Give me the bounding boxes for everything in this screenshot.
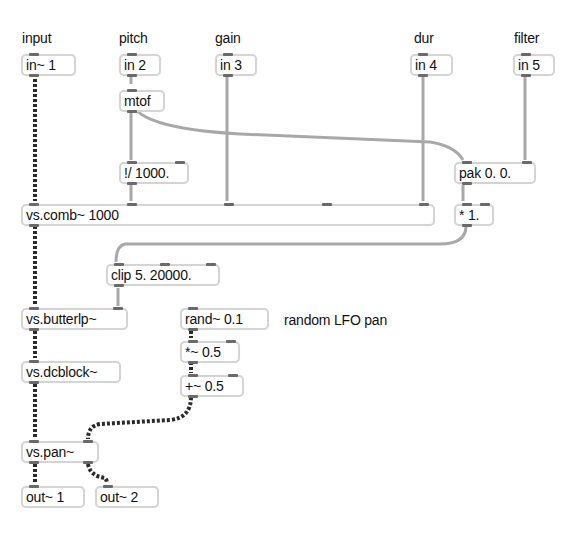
label-gain: gain — [215, 30, 241, 46]
cord-mtof-pak — [131, 100, 463, 160]
inlet-port[interactable] — [29, 307, 39, 310]
patcher-canvas[interactable]: input pitch gain dur filter random LFO p… — [0, 0, 573, 535]
comment-random-lfo-pan: random LFO pan — [284, 312, 387, 328]
inlet-port[interactable] — [223, 53, 233, 56]
object-vs-pan[interactable]: vs.pan~ — [21, 441, 99, 463]
object-mtof[interactable]: mtof — [119, 90, 165, 112]
outlet-port[interactable] — [462, 224, 472, 227]
object-clip[interactable]: clip 5. 20000. — [106, 264, 220, 286]
object-text: vs.dcblock~ — [26, 364, 97, 380]
inlet-port[interactable] — [188, 307, 198, 310]
object-text: !/ 1000. — [124, 165, 169, 181]
outlet-port[interactable] — [521, 74, 531, 77]
inlet-port[interactable] — [480, 203, 490, 206]
object-multiply[interactable]: * 1. — [454, 204, 494, 226]
object-text: mtof — [124, 93, 150, 109]
outlet-port[interactable] — [127, 182, 137, 185]
inlet-port[interactable] — [188, 374, 198, 377]
object-pak[interactable]: pak 0. 0. — [454, 162, 536, 184]
outlet-port[interactable] — [223, 74, 233, 77]
inlet-port[interactable] — [160, 263, 170, 266]
outlet-port[interactable] — [127, 74, 137, 77]
inlet-port[interactable] — [29, 53, 39, 56]
object-rdiv[interactable]: !/ 1000. — [119, 162, 189, 184]
inlet-port[interactable] — [188, 340, 198, 343]
object-add-signal[interactable]: +~ 0.5 — [180, 375, 244, 397]
inlet-port[interactable] — [29, 440, 39, 443]
outlet-port[interactable] — [188, 395, 198, 398]
object-mul-signal[interactable]: *~ 0.5 — [180, 341, 240, 363]
inlet-port[interactable] — [462, 203, 472, 206]
object-out2[interactable]: out~ 2 — [95, 486, 159, 508]
outlet-port[interactable] — [127, 110, 137, 113]
inlet-port[interactable] — [127, 161, 137, 164]
outlet-port[interactable] — [188, 328, 198, 331]
outlet-port[interactable] — [29, 224, 39, 227]
object-in4[interactable]: in 4 — [410, 54, 453, 76]
inlet-port[interactable] — [322, 203, 332, 206]
outlet-port[interactable] — [418, 74, 428, 77]
object-text: in 4 — [415, 57, 437, 73]
inlet-port[interactable] — [127, 89, 137, 92]
object-text: out~ 2 — [100, 489, 138, 505]
object-text: in~ 1 — [26, 57, 56, 73]
label-pitch: pitch — [119, 30, 148, 46]
outlet-port[interactable] — [29, 74, 39, 77]
object-text: out~ 1 — [26, 489, 64, 505]
object-text: clip 5. 20000. — [111, 267, 191, 283]
outlet-port[interactable] — [188, 361, 198, 364]
inlet-port[interactable] — [522, 161, 532, 164]
label-filter: filter — [514, 30, 539, 46]
inlet-port[interactable] — [419, 203, 429, 206]
inlet-port[interactable] — [521, 53, 531, 56]
object-text: in 3 — [220, 57, 242, 73]
object-text: vs.comb~ 1000 — [26, 207, 119, 223]
inlet-port[interactable] — [113, 307, 123, 310]
object-in3[interactable]: in 3 — [215, 54, 257, 76]
inlet-port[interactable] — [224, 203, 234, 206]
object-rand[interactable]: rand~ 0.1 — [180, 308, 269, 330]
inlet-port[interactable] — [29, 485, 39, 488]
cord-mul-clip — [116, 226, 466, 262]
object-text: pak 0. 0. — [459, 165, 511, 181]
outlet-port[interactable] — [114, 284, 124, 287]
object-text: *~ 0.5 — [185, 344, 221, 360]
object-text: rand~ 0.1 — [185, 311, 243, 327]
inlet-port[interactable] — [228, 374, 238, 377]
inlet-port[interactable] — [29, 360, 39, 363]
object-vs-comb[interactable]: vs.comb~ 1000 — [21, 204, 435, 226]
inlet-port[interactable] — [29, 203, 39, 206]
outlet-port[interactable] — [29, 381, 39, 384]
inlet-port[interactable] — [226, 340, 236, 343]
object-text: * 1. — [459, 207, 479, 223]
inlet-port[interactable] — [206, 263, 216, 266]
outlet-port[interactable] — [462, 182, 472, 185]
inlet-port[interactable] — [127, 53, 137, 56]
object-out1[interactable]: out~ 1 — [21, 486, 85, 508]
inlet-port[interactable] — [127, 203, 137, 206]
object-text: vs.butterlp~ — [26, 311, 96, 327]
object-vs-dcblock[interactable]: vs.dcblock~ — [21, 361, 121, 383]
object-in5[interactable]: in 5 — [513, 54, 555, 76]
inlet-port[interactable] — [418, 53, 428, 56]
label-dur: dur — [414, 30, 434, 46]
object-in2[interactable]: in 2 — [119, 54, 161, 76]
inlet-port[interactable] — [462, 161, 472, 164]
label-input: input — [22, 30, 51, 46]
object-vs-butterlp[interactable]: vs.butterlp~ — [21, 308, 128, 330]
cord-pan-out2 — [88, 464, 107, 484]
outlet-port[interactable] — [83, 461, 93, 464]
object-text: in 2 — [124, 57, 146, 73]
object-text: vs.pan~ — [26, 444, 74, 460]
inlet-port[interactable] — [175, 161, 185, 164]
inlet-port[interactable] — [83, 440, 93, 443]
outlet-port[interactable] — [29, 461, 39, 464]
inlet-port[interactable] — [103, 485, 113, 488]
object-text: in 5 — [518, 57, 540, 73]
object-in1[interactable]: in~ 1 — [21, 54, 76, 76]
object-text: +~ 0.5 — [185, 378, 224, 394]
inlet-port[interactable] — [114, 263, 124, 266]
cord-add-pan — [88, 397, 191, 439]
outlet-port[interactable] — [29, 328, 39, 331]
